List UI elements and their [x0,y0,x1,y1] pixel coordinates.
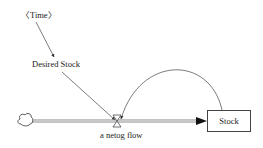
stock-label: Stock [219,116,238,126]
desired-stock-label[interactable]: Desired Stock [32,59,80,69]
link-desired-stock-to-flow [62,72,115,120]
stock-box[interactable]: Stock [207,110,251,132]
link-time-to-desired-stock [36,22,54,57]
flow-label[interactable]: a netog flow [100,130,143,140]
cloud-source-icon [18,114,33,126]
flow-pipe [32,117,207,125]
time-variable-label[interactable]: 〈Time〉 [21,8,57,20]
